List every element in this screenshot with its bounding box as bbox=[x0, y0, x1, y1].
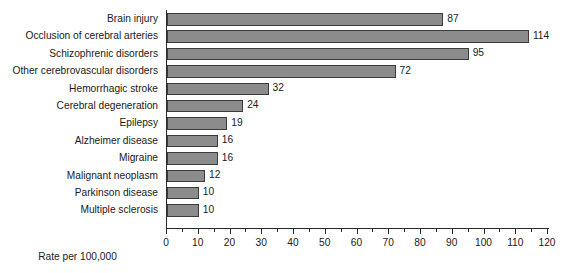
bar bbox=[167, 170, 205, 183]
bar-row: 95 bbox=[167, 47, 548, 64]
category-axis-labels: Brain injury Occlusion of cerebral arter… bbox=[0, 12, 163, 221]
category-label: Other cerebrovascular disorders bbox=[0, 64, 163, 81]
x-tick-minor bbox=[468, 229, 469, 232]
bar bbox=[167, 83, 269, 96]
x-tick-minor bbox=[404, 229, 405, 232]
bar-row: 10 bbox=[167, 203, 548, 220]
bar-row: 32 bbox=[167, 82, 548, 99]
x-tick-label: 10 bbox=[192, 236, 203, 249]
category-label: Malignant neoplasm bbox=[0, 169, 163, 186]
x-tick-label: 90 bbox=[446, 236, 457, 249]
x-tick-major bbox=[547, 229, 548, 234]
x-tick-label: 100 bbox=[475, 236, 492, 249]
bar bbox=[167, 48, 469, 61]
bar bbox=[167, 100, 243, 113]
bar-row: 12 bbox=[167, 169, 548, 186]
x-axis-title-text: Rate per 100,000 bbox=[38, 251, 117, 262]
x-tick-major bbox=[230, 229, 231, 234]
x-tick-label: 40 bbox=[287, 236, 298, 249]
bar-row: 87 bbox=[167, 12, 548, 29]
x-tick-minor bbox=[245, 229, 246, 232]
bar-value-label: 24 bbox=[247, 98, 258, 112]
bar bbox=[167, 135, 218, 148]
y-axis-line bbox=[166, 10, 167, 228]
bar-value-label: 10 bbox=[203, 203, 214, 217]
x-tick-label: 110 bbox=[507, 236, 523, 249]
bar-row: 19 bbox=[167, 116, 548, 133]
bar-value-label: 114 bbox=[533, 29, 549, 43]
category-label: Occlusion of cerebral arteries bbox=[0, 29, 163, 46]
bar bbox=[167, 117, 227, 130]
plot-area: 8711495723224191616121010 bbox=[167, 12, 548, 221]
x-tick-major bbox=[325, 229, 326, 234]
bar bbox=[167, 152, 218, 165]
x-tick-label: 120 bbox=[539, 236, 556, 249]
x-tick-major bbox=[357, 229, 358, 234]
x-tick-major bbox=[261, 229, 262, 234]
bar-chart: Brain injury Occlusion of cerebral arter… bbox=[0, 0, 565, 273]
category-label: Alzheimer disease bbox=[0, 134, 163, 151]
category-label: Parkinson disease bbox=[0, 186, 163, 203]
x-axis-line bbox=[166, 228, 549, 229]
x-axis-title: Rate per 100,000 bbox=[0, 251, 565, 262]
category-label: Epilepsy bbox=[0, 116, 163, 133]
bar-row: 24 bbox=[167, 99, 548, 116]
bar-value-label: 10 bbox=[203, 185, 214, 199]
bar-row: 16 bbox=[167, 151, 548, 168]
bar-row: 72 bbox=[167, 64, 548, 81]
bar-value-label: 72 bbox=[400, 64, 411, 78]
bar bbox=[167, 187, 199, 200]
x-tick-major bbox=[166, 229, 167, 234]
x-tick-major bbox=[420, 229, 421, 234]
x-tick-label: 0 bbox=[163, 236, 169, 249]
bar-row: 114 bbox=[167, 29, 548, 46]
bar bbox=[167, 65, 396, 78]
bar-value-label: 32 bbox=[273, 81, 284, 95]
x-tick-minor bbox=[436, 229, 437, 232]
bar bbox=[167, 204, 199, 217]
bar-row: 10 bbox=[167, 186, 548, 203]
category-label: Hemorrhagic stroke bbox=[0, 82, 163, 99]
x-tick-minor bbox=[309, 229, 310, 232]
x-tick-minor bbox=[182, 229, 183, 232]
bar-value-label: 19 bbox=[231, 116, 242, 130]
x-tick-label: 60 bbox=[351, 236, 362, 249]
bar bbox=[167, 30, 529, 43]
bar-value-label: 16 bbox=[222, 151, 233, 165]
bar-value-label: 95 bbox=[473, 46, 484, 60]
bar bbox=[167, 13, 443, 26]
bar-value-label: 87 bbox=[447, 12, 458, 26]
x-tick-label: 50 bbox=[319, 236, 330, 249]
x-tick-label: 80 bbox=[414, 236, 425, 249]
category-label: Cerebral degeneration bbox=[0, 99, 163, 116]
category-label: Migraine bbox=[0, 151, 163, 168]
x-tick-major bbox=[388, 229, 389, 234]
x-tick-minor bbox=[341, 229, 342, 232]
x-tick-label: 70 bbox=[383, 236, 394, 249]
x-tick-minor bbox=[214, 229, 215, 232]
x-tick-major bbox=[452, 229, 453, 234]
category-label: Multiple sclerosis bbox=[0, 203, 163, 220]
category-label: Schizophrenic disorders bbox=[0, 47, 163, 64]
x-tick-minor bbox=[531, 229, 532, 232]
x-tick-label: 30 bbox=[256, 236, 267, 249]
x-tick-major bbox=[484, 229, 485, 234]
bar-row: 16 bbox=[167, 134, 548, 151]
bar-value-label: 12 bbox=[209, 168, 220, 182]
bar-value-label: 16 bbox=[222, 133, 233, 147]
x-tick-major bbox=[293, 229, 294, 234]
x-tick-minor bbox=[372, 229, 373, 232]
x-tick-minor bbox=[499, 229, 500, 232]
x-tick-label: 20 bbox=[224, 236, 235, 249]
category-label: Brain injury bbox=[0, 12, 163, 29]
x-tick-minor bbox=[277, 229, 278, 232]
x-tick-major bbox=[515, 229, 516, 234]
x-tick-major bbox=[198, 229, 199, 234]
